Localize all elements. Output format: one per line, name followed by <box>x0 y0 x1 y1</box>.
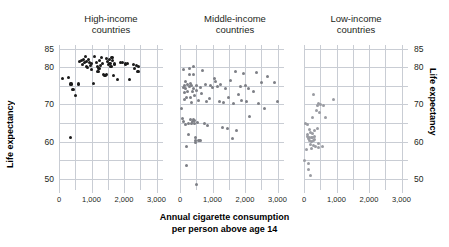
data-point <box>199 86 202 89</box>
data-point <box>182 68 185 71</box>
data-point <box>310 147 313 150</box>
data-point <box>201 69 204 72</box>
gridline-vertical <box>402 45 403 190</box>
gridline-vertical <box>385 45 386 190</box>
data-point <box>195 89 198 92</box>
data-point <box>221 126 224 129</box>
data-point <box>211 86 214 89</box>
data-point <box>234 70 237 73</box>
data-point <box>69 82 72 85</box>
data-point <box>266 75 269 78</box>
data-point <box>193 94 196 97</box>
x-tick-mark <box>157 190 158 193</box>
data-point <box>231 137 234 140</box>
data-point <box>255 71 258 74</box>
gridline-vertical <box>353 45 354 190</box>
data-point <box>112 74 115 77</box>
y-tick-label-left: 60 <box>27 137 54 147</box>
data-point <box>208 97 211 100</box>
data-point <box>93 55 96 58</box>
data-point <box>242 72 245 75</box>
data-point <box>237 93 240 96</box>
data-point <box>100 56 103 59</box>
data-point <box>227 96 230 99</box>
gridline-vertical <box>337 45 338 190</box>
gridline-vertical <box>59 45 60 190</box>
x-tick-mark <box>369 190 370 193</box>
panel-title-high-income: High-income countries <box>56 13 166 35</box>
data-point <box>260 81 263 84</box>
gridline-vertical <box>369 45 370 190</box>
data-point <box>248 115 251 118</box>
data-point <box>224 87 227 90</box>
panel-title-middle-income: Middle-income countries <box>176 13 294 35</box>
data-point <box>263 107 266 110</box>
gridline-vertical <box>140 45 141 190</box>
data-point <box>273 81 276 84</box>
x-tick-mark <box>59 190 60 193</box>
data-point <box>74 94 77 97</box>
y-tick-label-right: 50 <box>414 174 441 184</box>
gridline-vertical <box>124 45 125 190</box>
data-point <box>244 84 247 87</box>
y-tick-label-left: 70 <box>27 99 54 109</box>
data-point <box>214 80 217 83</box>
data-point <box>247 87 250 90</box>
x-tick-label: 0 <box>287 195 321 204</box>
y-axis-label-right: Life expectancy <box>428 68 438 168</box>
data-point <box>235 129 238 132</box>
data-point <box>69 136 72 139</box>
data-point <box>195 84 198 87</box>
gridline-vertical <box>278 45 279 190</box>
data-point <box>183 98 186 101</box>
data-point <box>185 164 188 167</box>
y-tick-label-left: 50 <box>27 174 54 184</box>
data-point <box>187 133 190 136</box>
x-tick-label: 1,000 <box>196 195 230 204</box>
x-tick-label: 2,000 <box>352 195 386 204</box>
data-point <box>101 62 104 65</box>
data-point <box>245 100 248 103</box>
data-point <box>192 73 195 76</box>
plot-area-low-income <box>304 45 408 190</box>
chart-figure: High-income countries Middle-income coun… <box>0 0 449 247</box>
data-point <box>229 79 232 82</box>
gridline-vertical <box>229 45 230 190</box>
data-point <box>90 62 93 65</box>
x-tick-label: 3,000 <box>385 195 419 204</box>
data-point <box>218 100 221 103</box>
x-tick-mark <box>337 190 338 193</box>
data-point <box>316 127 319 130</box>
data-point <box>105 73 108 76</box>
data-point <box>307 162 310 165</box>
x-tick-mark <box>245 190 246 193</box>
data-point <box>188 73 191 76</box>
x-tick-mark <box>180 190 181 193</box>
data-point <box>205 100 208 103</box>
data-point <box>186 90 189 93</box>
gridline-vertical <box>304 45 305 190</box>
data-point <box>257 102 260 105</box>
gridline-vertical <box>157 45 158 190</box>
data-point <box>92 82 95 85</box>
gridline-vertical <box>320 45 321 190</box>
y-tick-label-right: 60 <box>414 137 441 147</box>
data-point <box>276 100 279 103</box>
x-tick-mark <box>213 190 214 193</box>
data-point <box>199 139 202 142</box>
data-point <box>109 65 112 68</box>
data-point <box>67 76 70 79</box>
data-point <box>311 116 314 119</box>
y-axis-label-left: Life expectancy <box>5 68 15 168</box>
x-tick-mark <box>124 190 125 193</box>
x-tick-mark <box>92 190 93 193</box>
data-point <box>332 98 335 101</box>
data-point <box>61 77 64 80</box>
y-tick-label-right: 85 <box>414 44 441 54</box>
data-point <box>312 93 315 96</box>
data-point <box>77 82 80 85</box>
data-point <box>96 70 99 73</box>
data-point <box>321 145 324 148</box>
data-point <box>313 129 316 132</box>
x-tick-mark <box>278 190 279 193</box>
